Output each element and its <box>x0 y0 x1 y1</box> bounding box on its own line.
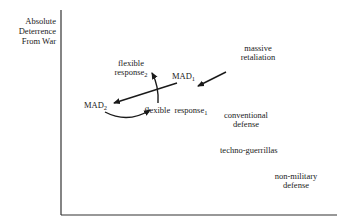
node-subscript: 2 <box>144 71 147 78</box>
node-subscript: 1 <box>192 75 195 82</box>
node-line: retaliation <box>228 53 288 62</box>
node-mad2: MAD2 <box>84 101 107 110</box>
node-line: defense <box>216 120 276 129</box>
y-axis-label-line: Absolute <box>6 16 56 26</box>
node-mad1: MAD1 <box>172 72 195 81</box>
node-text: techno-guerrillas <box>220 145 278 155</box>
node-conventional-defense: conventional defense <box>216 111 276 129</box>
node-subscript: 2 <box>104 104 107 111</box>
node-massive-retaliation: massive retaliation <box>228 44 288 62</box>
y-axis-label-line: From War <box>6 36 56 46</box>
node-subscript: 1 <box>204 109 207 116</box>
y-axis-label: Absolute Deterrence From War <box>6 16 56 46</box>
node-text: MAD <box>172 71 192 81</box>
node-text: flexible response <box>144 105 204 115</box>
node-text: MAD <box>84 100 104 110</box>
node-flexible-response2: flexible response2 <box>104 59 158 77</box>
node-line: defense <box>271 181 321 190</box>
node-line: response <box>115 67 145 77</box>
node-non-military-defense: non-military defense <box>271 172 321 190</box>
y-axis-label-line: Deterrence <box>6 26 56 36</box>
node-flexible-response1: flexible response1 <box>140 97 207 115</box>
node-techno-guerrillas: techno-guerrillas <box>220 146 278 155</box>
arrow-massive-retaliation-to-mad1 <box>198 72 226 86</box>
